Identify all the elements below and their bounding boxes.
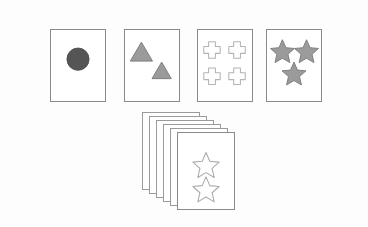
diagram-canvas bbox=[0, 0, 368, 227]
card-with-three-stars[interactable] bbox=[266, 29, 322, 102]
star-icon bbox=[295, 40, 319, 63]
cross-shape-group bbox=[198, 30, 252, 101]
cross-icon bbox=[204, 42, 220, 59]
cross-icon bbox=[229, 68, 245, 85]
triangle-icon bbox=[152, 62, 171, 79]
star-icon bbox=[270, 40, 294, 63]
circle-shape-group bbox=[51, 30, 105, 101]
deck-card-front[interactable] bbox=[177, 132, 235, 210]
card-with-one-circle[interactable] bbox=[50, 29, 106, 102]
triangle-shape-group bbox=[125, 30, 179, 101]
card-with-four-crosses[interactable] bbox=[197, 29, 253, 102]
card-with-two-triangles[interactable] bbox=[124, 29, 180, 102]
star-icon bbox=[193, 177, 219, 202]
star-icon bbox=[282, 62, 306, 85]
star-shape-group bbox=[267, 30, 321, 101]
triangle-icon bbox=[130, 42, 152, 61]
circle-icon bbox=[67, 48, 89, 70]
cross-icon bbox=[229, 42, 245, 59]
deck-star-shape-group bbox=[178, 133, 234, 209]
cross-icon bbox=[204, 68, 220, 85]
star-icon bbox=[193, 152, 219, 177]
card-deck[interactable] bbox=[142, 112, 238, 210]
